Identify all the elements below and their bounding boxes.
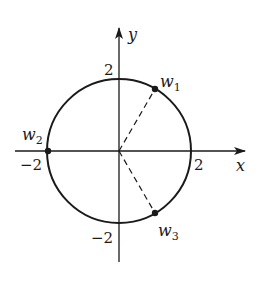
label-w3-sub: 3: [172, 230, 179, 243]
label-w2-sub: 2: [36, 134, 43, 147]
label-w1: w1: [160, 72, 181, 94]
tick-y-neg2: −2: [91, 229, 113, 247]
tick-x-neg2: −2: [20, 156, 42, 174]
label-w3: w3: [158, 221, 179, 243]
tick-x-2: 2: [194, 156, 204, 174]
label-w1-base: w: [160, 72, 174, 91]
y-axis-label: y: [127, 25, 138, 44]
point-w2: [45, 148, 51, 154]
dashed-radius-w1: [119, 89, 155, 151]
label-w2: w2: [22, 125, 43, 147]
point-w1: [152, 86, 158, 92]
tick-y-2: 2: [104, 61, 114, 79]
complex-plane-diagram: y x 2 −2 −2 2 w1 w2 w3: [0, 0, 266, 281]
label-w1-sub: 1: [174, 81, 181, 94]
label-w2-base: w: [22, 125, 36, 144]
x-axis-label: x: [236, 156, 245, 175]
label-w3-base: w: [158, 221, 172, 240]
point-w3: [152, 210, 158, 216]
dashed-radius-w3: [119, 151, 155, 213]
